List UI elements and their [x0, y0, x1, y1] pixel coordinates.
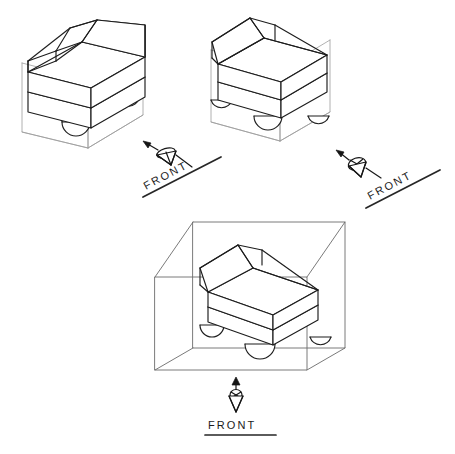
drawing-sheet: FRONT FRONT — [0, 0, 455, 454]
isometric-view-in-glass-box — [155, 222, 345, 370]
eye-cone-icon — [229, 390, 243, 413]
front-marker-right: FRONT — [336, 150, 440, 208]
eye-cone-icon — [347, 156, 368, 177]
isometric-view-right — [211, 18, 330, 141]
front-label-left-text: FRONT — [141, 158, 189, 191]
front-label-left: FRONT — [141, 158, 189, 191]
front-marker-left: FRONT — [141, 141, 221, 197]
technical-drawing-canvas: FRONT FRONT — [0, 0, 455, 454]
front-label-bottom-text: FRONT — [208, 419, 256, 431]
front-label-bottom: FRONT — [208, 419, 256, 431]
isometric-view-left — [22, 20, 145, 148]
eye-cone-icon — [156, 146, 177, 165]
front-marker-bottom: FRONT — [205, 377, 276, 435]
